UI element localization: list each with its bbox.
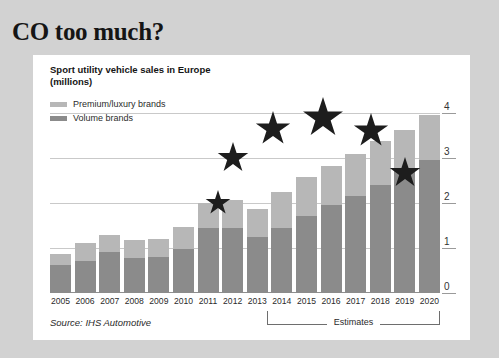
bar-column[interactable] bbox=[345, 113, 366, 293]
bar-segment-volume bbox=[148, 257, 169, 293]
x-axis-label: 2018 bbox=[370, 296, 391, 306]
x-axis-label: 2013 bbox=[247, 296, 268, 306]
chart-card: Sport utility vehicle sales in Europe (m… bbox=[33, 55, 470, 340]
estimates-label-text: Estimates bbox=[327, 317, 381, 327]
bar-column[interactable] bbox=[124, 113, 145, 293]
chart-title: Sport utility vehicle sales in Europe (m… bbox=[50, 64, 211, 88]
x-axis-label: 2011 bbox=[198, 296, 219, 306]
bar-segment-volume bbox=[296, 216, 317, 293]
x-axis-label: 2017 bbox=[345, 296, 366, 306]
x-axis-label: 2010 bbox=[173, 296, 194, 306]
y-tick-label: 0 bbox=[444, 281, 450, 292]
bar-segment-volume bbox=[99, 252, 120, 293]
bar-segment-volume bbox=[370, 185, 391, 293]
bar-column[interactable] bbox=[148, 113, 169, 293]
y-tick-rule bbox=[442, 113, 456, 114]
bar-segment-volume bbox=[321, 205, 342, 293]
x-axis-label: 2014 bbox=[271, 296, 292, 306]
bar-segment-premium bbox=[296, 177, 317, 215]
bar-column[interactable] bbox=[173, 113, 194, 293]
bar-segment-premium bbox=[148, 239, 169, 257]
y-tick-label: 3 bbox=[444, 146, 450, 157]
bar-segment-premium bbox=[419, 115, 440, 160]
bar-segment-volume bbox=[173, 249, 194, 293]
bar-column[interactable] bbox=[198, 113, 219, 293]
bar-segment-volume bbox=[50, 265, 71, 293]
estimates-label: Estimates bbox=[267, 317, 440, 327]
x-axis-label: 2007 bbox=[99, 296, 120, 306]
y-axis: 01234 bbox=[440, 113, 470, 293]
legend-swatch-premium bbox=[50, 102, 67, 107]
bar-segment-volume bbox=[247, 237, 268, 293]
y-tick-rule bbox=[442, 293, 456, 294]
bar-group bbox=[50, 113, 440, 293]
bar-segment-premium bbox=[271, 192, 292, 228]
estimates-bracket: Estimates bbox=[267, 311, 440, 333]
bar-segment-premium bbox=[50, 254, 71, 265]
bar-segment-volume bbox=[394, 171, 415, 293]
bar-column[interactable] bbox=[321, 113, 342, 293]
x-axis-label: 2008 bbox=[124, 296, 145, 306]
chart-title-line1: Sport utility vehicle sales in Europe bbox=[50, 64, 211, 76]
x-axis-label: 2015 bbox=[296, 296, 317, 306]
bar-column[interactable] bbox=[75, 113, 96, 293]
bar-column[interactable] bbox=[394, 113, 415, 293]
y-tick-label: 1 bbox=[444, 236, 450, 247]
bar-segment-premium bbox=[370, 141, 391, 185]
bar-segment-volume bbox=[419, 160, 440, 293]
bar-column[interactable] bbox=[419, 113, 440, 293]
y-tick-rule bbox=[442, 158, 456, 159]
x-axis-label: 2006 bbox=[75, 296, 96, 306]
bar-segment-volume bbox=[198, 228, 219, 293]
bar-segment-volume bbox=[271, 228, 292, 293]
bar-column[interactable] bbox=[370, 113, 391, 293]
bar-segment-volume bbox=[75, 261, 96, 293]
x-axis-label: 2005 bbox=[50, 296, 71, 306]
x-axis-label: 2020 bbox=[419, 296, 440, 306]
x-axis-label: 2019 bbox=[394, 296, 415, 306]
bar-column[interactable] bbox=[50, 113, 71, 293]
x-axis-label: 2009 bbox=[148, 296, 169, 306]
chart-title-line2: (millions) bbox=[50, 76, 211, 88]
bar-column[interactable] bbox=[271, 113, 292, 293]
bar-column[interactable] bbox=[296, 113, 317, 293]
x-axis-label: 2012 bbox=[222, 296, 243, 306]
page-headline: CO too much? bbox=[12, 18, 164, 46]
bar-segment-volume bbox=[345, 196, 366, 293]
bar-column[interactable] bbox=[99, 113, 120, 293]
bar-segment-premium bbox=[321, 166, 342, 206]
bar-segment-volume bbox=[124, 258, 145, 293]
bar-column[interactable] bbox=[247, 113, 268, 293]
bar-segment-premium bbox=[124, 240, 145, 258]
bar-segment-premium bbox=[75, 243, 96, 261]
bar-segment-premium bbox=[99, 235, 120, 252]
bar-column[interactable] bbox=[222, 113, 243, 293]
bar-segment-premium bbox=[222, 200, 243, 228]
legend-item-premium: Premium/luxury brands bbox=[50, 97, 166, 111]
y-tick-label: 4 bbox=[444, 101, 450, 112]
bar-segment-premium bbox=[173, 227, 194, 249]
x-axis-label: 2016 bbox=[321, 296, 342, 306]
y-tick-label: 2 bbox=[444, 191, 450, 202]
x-axis: 2005200620072008200920102011201220132014… bbox=[50, 296, 440, 306]
source-note: Source: IHS Automotive bbox=[50, 317, 151, 328]
bar-segment-premium bbox=[198, 203, 219, 228]
bar-segment-premium bbox=[247, 209, 268, 237]
bar-segment-premium bbox=[394, 130, 415, 171]
bar-segment-premium bbox=[345, 154, 366, 197]
bar-segment-volume bbox=[222, 228, 243, 293]
legend-label-premium: Premium/luxury brands bbox=[73, 99, 166, 109]
y-tick-rule bbox=[442, 248, 456, 249]
y-tick-rule bbox=[442, 203, 456, 204]
plot-area bbox=[50, 113, 440, 293]
